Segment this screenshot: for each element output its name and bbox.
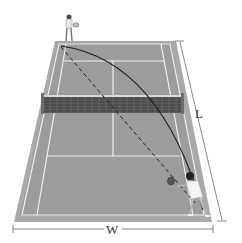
width-label: W [106, 222, 119, 237]
tennis-court-diagram: L W [0, 0, 242, 243]
net [41, 93, 184, 114]
far-player [66, 15, 79, 42]
length-label: L [195, 106, 203, 121]
